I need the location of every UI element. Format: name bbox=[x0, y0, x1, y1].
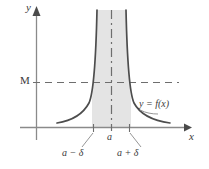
function-label: y = f(x) bbox=[139, 99, 169, 109]
x-axis-label: x bbox=[189, 131, 194, 142]
curve-left-branch bbox=[57, 10, 97, 123]
y-axis-arrowhead bbox=[33, 6, 41, 16]
center-label-a: a bbox=[107, 132, 112, 142]
leader-line-right bbox=[130, 133, 141, 147]
leader-line-left bbox=[82, 133, 93, 147]
threshold-label-m: M bbox=[20, 75, 30, 86]
left-bound-label: a − δ bbox=[62, 148, 83, 158]
limit-graph-svg bbox=[0, 0, 209, 169]
figure-container: y x M a a − δ a + δ y = f(x) bbox=[0, 0, 209, 169]
right-bound-label: a + δ bbox=[117, 148, 138, 158]
y-axis-label: y bbox=[26, 2, 31, 13]
